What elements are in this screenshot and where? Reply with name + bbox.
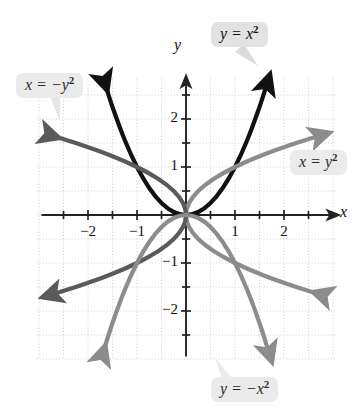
callout-rhs: y — [325, 153, 332, 170]
callout-x-equals-neg-y-squared: x = −y2 — [16, 73, 83, 98]
x-tick-label: −2 — [68, 223, 108, 240]
callout-lhs: x — [25, 76, 32, 93]
y-tick-label: 1 — [140, 157, 178, 174]
callout-x-equals-y-squared: x = y2 — [290, 150, 347, 175]
y-tick-label: 2 — [140, 109, 178, 126]
callout-rhs: −y — [51, 76, 69, 93]
callout-exponent: 2 — [69, 74, 75, 86]
pointer-y-equals-x-squared — [235, 44, 258, 66]
callout-rhs: x — [246, 25, 253, 42]
callout-y-equals-x-squared: y = x2 — [211, 22, 268, 47]
coordinate-plot — [0, 0, 364, 417]
y-tick-label: −1 — [140, 253, 178, 270]
y-axis-label: y — [174, 36, 181, 54]
callout-y-equals-neg-x-squared: y = −x2 — [211, 377, 278, 402]
callout-exponent: 2 — [332, 151, 338, 163]
callout-lhs: y — [220, 380, 227, 397]
callout-op: = — [231, 380, 242, 397]
y-tick-label: −2 — [140, 301, 178, 318]
callout-lhs: x — [299, 153, 306, 170]
parabola-figure: y x −2−11221−1−2 x = −y2 y = x2 x = y2 y… — [0, 0, 364, 417]
x-tick-label: 2 — [264, 223, 304, 240]
x-tick-label: 1 — [215, 223, 255, 240]
callout-op: = — [310, 153, 321, 170]
callout-exponent: 2 — [264, 378, 270, 390]
x-tick-label: −1 — [117, 223, 157, 240]
callout-exponent: 2 — [253, 23, 259, 35]
callout-rhs: −x — [246, 380, 264, 397]
callout-op: = — [231, 25, 242, 42]
callout-lhs: y — [220, 25, 227, 42]
x-axis-label: x — [340, 203, 347, 221]
callout-op: = — [36, 76, 47, 93]
pointer-x-equals-neg-y-squared — [50, 96, 60, 122]
